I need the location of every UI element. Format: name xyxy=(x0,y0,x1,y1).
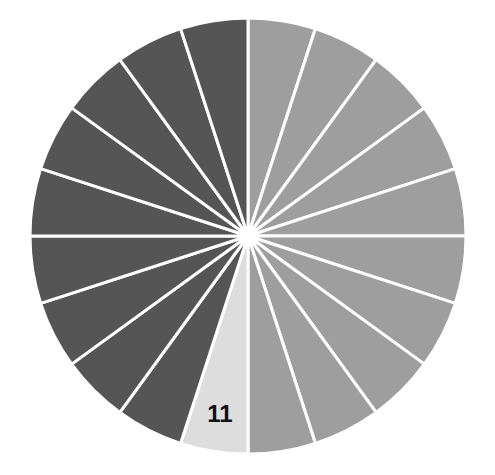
pie-chart: 11 xyxy=(0,0,495,475)
pie-center xyxy=(243,231,253,241)
slice-label-11: 11 xyxy=(207,400,232,427)
pie-slices xyxy=(30,18,466,454)
